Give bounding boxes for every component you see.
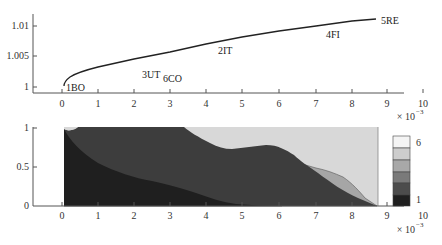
top-x-tick: 0 (60, 98, 65, 109)
svg-text:× 10: × 10 (397, 224, 415, 235)
annotation-3ut: 3UT (142, 69, 160, 80)
top-x-multiplier: × 10 −3 (397, 108, 424, 122)
bottom-y-tick: 0.5 (17, 161, 30, 172)
annotation-6co: 6CO (163, 73, 182, 84)
top-x-tick: 5 (240, 98, 245, 109)
colorbar-label-bottom: 1 (416, 194, 421, 205)
bottom-x-tick: 5 (240, 210, 245, 221)
bottom-y-tick: 0 (24, 200, 29, 211)
top-y-tick: 1 (24, 81, 29, 92)
top-x-tick: 9 (385, 98, 390, 109)
bottom-x-tick: 3 (168, 210, 173, 221)
svg-text:−3: −3 (416, 108, 424, 116)
top-y-tick: 1.005 (7, 50, 30, 61)
figure: 1 1.005 1.01 0 1 2 3 4 5 6 7 8 9 (0, 0, 442, 245)
bottom-x-tick: 0 (60, 210, 65, 221)
top-x-tick: 7 (314, 98, 319, 109)
top-x-tick: 4 (204, 98, 209, 109)
bottom-x-tick: 4 (204, 210, 209, 221)
bottom-stacked-area-chart: 1 0.5 0 0 1 2 3 4 5 6 7 8 9 10 (17, 122, 429, 235)
top-x-tick: 3 (168, 98, 173, 109)
bottom-x-tick: 7 (314, 210, 319, 221)
bottom-x-tick: 1 (96, 210, 101, 221)
bottom-x-tick: 9 (385, 210, 390, 221)
annotation-5re: 5RE (381, 15, 399, 26)
svg-text:× 10: × 10 (397, 111, 415, 122)
svg-text:−3: −3 (416, 221, 424, 229)
annotation-4fi: 4FI (326, 29, 340, 40)
annotation-2it: 2IT (218, 45, 232, 56)
bottom-x-tick: 10 (418, 210, 428, 221)
annotation-1bo: 1BO (66, 82, 85, 93)
bottom-y-tick: 1 (24, 122, 29, 133)
top-x-tick: 6 (277, 98, 282, 109)
top-x-tick: 8 (350, 98, 355, 109)
top-y-tick: 1.01 (12, 20, 30, 31)
bottom-x-multiplier: × 10 −3 (397, 221, 424, 235)
top-line-chart: 1 1.005 1.01 0 1 2 3 4 5 6 7 8 9 (7, 14, 429, 122)
top-x-tick: 1 (96, 98, 101, 109)
colorbar: 6 1 (393, 136, 421, 206)
bottom-x-tick: 8 (350, 210, 355, 221)
bottom-x-tick: 6 (277, 210, 282, 221)
colorbar-label-top: 6 (416, 137, 421, 148)
bottom-x-tick: 2 (132, 210, 137, 221)
top-x-tick: 2 (132, 98, 137, 109)
